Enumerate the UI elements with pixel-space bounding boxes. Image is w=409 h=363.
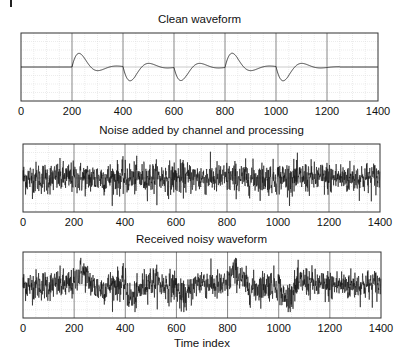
x-tick-label: 1400 <box>366 105 390 117</box>
x-tick-label: 1200 <box>318 322 342 334</box>
x-tick-label: 200 <box>63 105 81 117</box>
x-tick-label: 800 <box>216 105 234 117</box>
x-tick-label: 1000 <box>264 105 288 117</box>
x-tick-label: 200 <box>65 216 83 228</box>
x-tick-label: 0 <box>20 216 26 228</box>
x-tick-label: 1000 <box>266 216 290 228</box>
x-tick-label: 1400 <box>369 322 393 334</box>
x-tick-label: 1200 <box>315 105 339 117</box>
x-tick-label: 0 <box>18 105 24 117</box>
x-tick-label: 1000 <box>266 322 290 334</box>
x-tick-label: 200 <box>65 322 83 334</box>
x-tick-label: 600 <box>167 216 185 228</box>
waveform-charts <box>0 0 409 363</box>
x-tick-label: 400 <box>114 105 132 117</box>
x-tick-label: 1200 <box>317 216 341 228</box>
x-tick-label: 800 <box>218 322 236 334</box>
x-tick-label: 600 <box>165 105 183 117</box>
x-tick-label: 1400 <box>368 216 392 228</box>
x-tick-label: 800 <box>218 216 236 228</box>
x-tick-label: 400 <box>116 322 134 334</box>
x-tick-label: 400 <box>116 216 134 228</box>
x-tick-label: 0 <box>20 322 26 334</box>
x-tick-label: 600 <box>167 322 185 334</box>
x-axis-label: Time index <box>174 337 230 349</box>
